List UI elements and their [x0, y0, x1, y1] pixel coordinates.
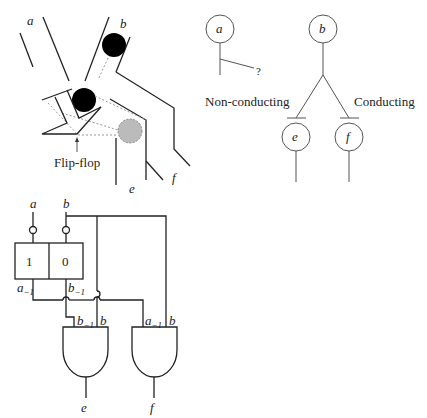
state-diagram: a ? b Non-conducting Conducting e f [205, 15, 415, 182]
and-gate-f [132, 327, 177, 377]
circuit-output-e: e [81, 400, 87, 415]
inverter-bubble-a [30, 227, 37, 234]
node-b-label: b [319, 21, 326, 36]
mechanism-label-b: b [120, 16, 127, 31]
flipflop-label: Flip-flop [54, 155, 100, 170]
channel-f-inner-wall [146, 161, 163, 180]
wire-a-prev-left [33, 279, 63, 300]
marble-b-upper [102, 33, 126, 57]
pivot-arrow-head [75, 137, 79, 142]
node-a-label: a [216, 21, 223, 36]
circuit-input-a: a [30, 196, 37, 211]
label-a-prev: a−1 [17, 280, 34, 297]
node-a-branch [220, 59, 254, 68]
and-gate-e [63, 327, 108, 377]
marble-in-flipflop [72, 88, 96, 112]
flipflop-value-right: 0 [62, 254, 69, 269]
trajectory-b-down [98, 58, 108, 80]
wire-b-crossover [97, 291, 100, 297]
trajectory-to-f [95, 96, 146, 120]
flipflop-ghost-left [48, 103, 78, 135]
mechanism-label-e: e [129, 181, 135, 196]
node-e-label: e [292, 129, 298, 144]
branch-to-f [323, 75, 349, 118]
inverter-bubble-b [63, 227, 70, 234]
label-conducting: Conducting [354, 94, 415, 109]
mechanism-label-a: a [27, 13, 34, 28]
gate-e-input-b: b [100, 313, 107, 328]
branch-to-e [296, 75, 323, 118]
gate-f-input-b: b [169, 313, 176, 328]
marble-ghost [118, 119, 142, 143]
diagram-canvas: a b Flip-flop e f [0, 0, 427, 418]
node-f-label: f [346, 129, 352, 144]
question-mark: ? [256, 65, 261, 77]
channel-a-right-wall [43, 17, 69, 81]
circuit-output-f: f [150, 400, 156, 415]
label-non-conducting: Non-conducting [205, 94, 290, 109]
circuit-input-b: b [63, 196, 70, 211]
channel-a-left-wall [20, 33, 33, 67]
flipflop-value-left: 1 [26, 254, 33, 269]
wire-b-to-gate-f [66, 216, 166, 327]
mechanism-diagram: a b Flip-flop e f [20, 13, 190, 196]
logic-circuit: a b 1 0 a−1 b−1 b−1 b a−1 b [15, 196, 177, 415]
label-b-prev: b−1 [68, 280, 85, 297]
mechanism-label-f: f [172, 170, 178, 185]
